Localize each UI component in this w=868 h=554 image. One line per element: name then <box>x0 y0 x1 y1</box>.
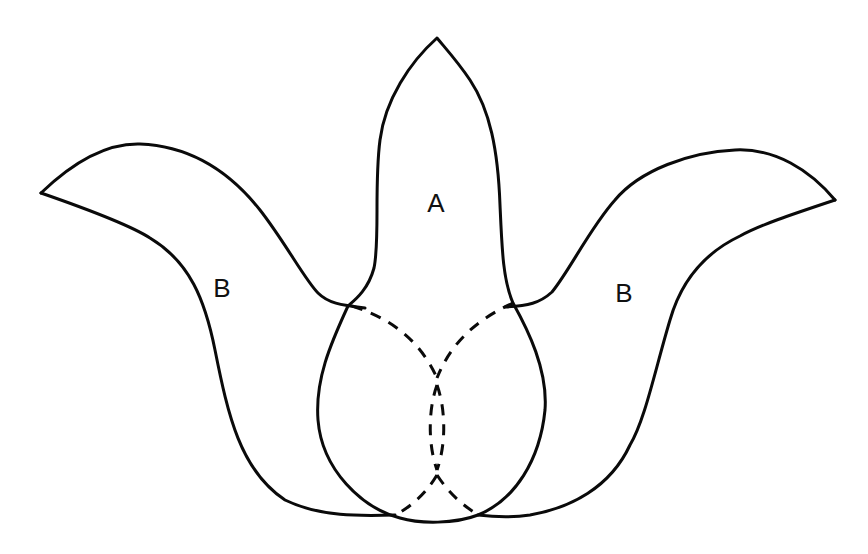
hidden-edge-lens-right <box>437 385 444 470</box>
petal-b-left-outline <box>41 144 365 308</box>
hidden-edge-right-upper <box>437 303 513 378</box>
hidden-edge-left-upper <box>352 306 437 378</box>
petal-b-left-lower-edge <box>41 193 395 515</box>
label-a: A <box>427 188 445 218</box>
hidden-edge-left-lower <box>394 475 437 516</box>
hidden-edge-right-lower <box>437 475 480 516</box>
petal-b-right-outline <box>505 150 835 307</box>
hidden-edge-lens-left <box>430 385 437 470</box>
petal-diagram: A B B <box>0 0 868 554</box>
label-b-right: B <box>615 278 632 308</box>
petal-b-right-lower-edge <box>478 200 835 517</box>
label-b-left: B <box>213 273 230 303</box>
